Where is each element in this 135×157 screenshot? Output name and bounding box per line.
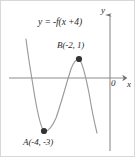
point-a-label: A(-4, -3) — [23, 138, 53, 147]
point-b-label: B(-2, 1) — [57, 41, 84, 50]
graph-figure: y = -f(x +4) B(-2, 1) A(-4, -3) 0 y x — [0, 0, 135, 157]
cubic-curve — [26, 39, 97, 133]
equation-label: y = -f(x +4) — [38, 18, 82, 28]
y-axis-label: y — [101, 6, 105, 15]
x-axis-label: x — [127, 80, 131, 89]
point-a-marker — [41, 128, 47, 134]
origin-label: 0 — [111, 79, 115, 88]
point-b-marker — [76, 56, 82, 62]
